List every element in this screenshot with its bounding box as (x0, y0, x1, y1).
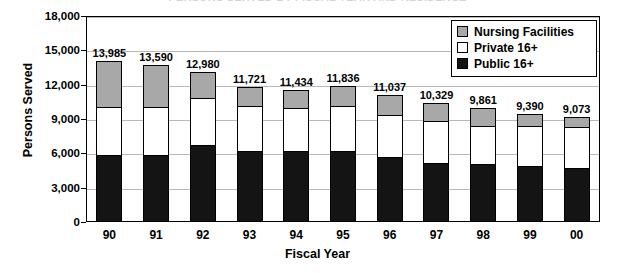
bar-segment[interactable] (330, 106, 356, 151)
bar-segment[interactable] (377, 157, 403, 222)
bar-segment[interactable] (330, 86, 356, 108)
bar-segment[interactable] (377, 115, 403, 158)
white-swatch-icon (457, 42, 468, 53)
bar-segment[interactable] (237, 106, 263, 151)
bar-segment[interactable] (96, 61, 122, 108)
black-swatch-icon (457, 58, 468, 69)
y-axis-tick-label: 0 (24, 217, 80, 227)
legend-item-label: Nursing Facilities (474, 25, 574, 39)
bar-segment[interactable] (517, 126, 543, 167)
bar-value-label: 12,980 (168, 58, 238, 70)
y-axis-tick-label: 9,000 (24, 114, 80, 124)
bar-column[interactable] (377, 16, 403, 222)
legend-item-label: Public 16+ (474, 57, 534, 71)
bar-segment[interactable] (517, 166, 543, 222)
bar-segment[interactable] (96, 155, 122, 222)
bar-segment[interactable] (143, 65, 169, 107)
bar-segment[interactable] (330, 151, 356, 222)
x-axis-title: Fiscal Year (0, 247, 635, 261)
bar-segment[interactable] (564, 127, 590, 169)
bar-column[interactable] (423, 16, 449, 222)
bar-segment[interactable] (96, 107, 122, 157)
chart-title: PERSONS SERVED BY FISCAL YEAR AND RESIDE… (0, 0, 635, 3)
bar-segment[interactable] (237, 87, 263, 107)
bar-segment[interactable] (283, 90, 309, 109)
bar-segment[interactable] (283, 151, 309, 222)
bar-segment[interactable] (190, 98, 216, 147)
bar-column[interactable] (237, 16, 263, 222)
bar-segment[interactable] (283, 108, 309, 152)
chart-container: PERSONS SERVED BY FISCAL YEAR AND RESIDE… (0, 0, 635, 273)
bar-column[interactable] (190, 16, 216, 222)
bar-segment[interactable] (237, 151, 263, 222)
legend-item-label: Private 16+ (474, 41, 538, 55)
bar-segment[interactable] (143, 107, 169, 156)
bar-segment[interactable] (470, 164, 496, 222)
bar-segment[interactable] (470, 126, 496, 165)
y-axis-tick-label: 18,000 (24, 11, 80, 21)
bar-segment[interactable] (423, 121, 449, 164)
legend-item[interactable]: Private 16+ (457, 40, 592, 55)
bar-segment[interactable] (517, 114, 543, 128)
bar-column[interactable] (330, 16, 356, 222)
x-axis-tick-label: 00 (547, 228, 607, 242)
y-axis-tick-label: 6,000 (24, 148, 80, 158)
y-axis-tick-label: 15,000 (24, 45, 80, 55)
y-axis-tick-labels: 03,0006,0009,00012,00015,00018,000 (20, 0, 80, 273)
bar-segment[interactable] (564, 117, 590, 128)
legend-item[interactable]: Nursing Facilities (457, 24, 592, 39)
bar-column[interactable] (283, 16, 309, 222)
chart-legend: Nursing FacilitiesPrivate 16+Public 16+ (451, 20, 597, 77)
gray-swatch-icon (457, 26, 468, 37)
bar-segment[interactable] (423, 103, 449, 122)
bar-segment[interactable] (190, 145, 216, 222)
bar-segment[interactable] (143, 155, 169, 222)
y-axis-tick-label: 3,000 (24, 183, 80, 193)
bar-segment[interactable] (190, 72, 216, 98)
y-axis-tickmark (81, 222, 86, 223)
bar-segment[interactable] (377, 95, 403, 117)
y-axis-tick-label: 12,000 (24, 80, 80, 90)
bar-segment[interactable] (423, 163, 449, 222)
bar-segment[interactable] (470, 108, 496, 127)
bar-column[interactable] (143, 16, 169, 222)
bar-value-label: 9,073 (542, 103, 612, 115)
legend-item[interactable]: Public 16+ (457, 56, 592, 71)
bar-segment[interactable] (564, 168, 590, 222)
